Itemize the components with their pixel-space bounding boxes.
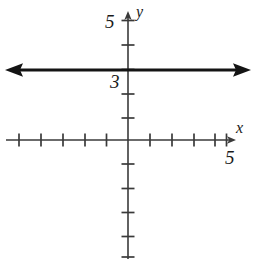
- graph-canvas: [0, 0, 255, 261]
- coordinate-plane-figure: y x 5 3 5: [0, 0, 255, 261]
- x-axis-label: x: [236, 120, 243, 136]
- y-axis-group: [122, 11, 135, 259]
- y-axis-tick-label-5: 5: [105, 12, 115, 31]
- x-axis-tick-label-5: 5: [225, 148, 235, 167]
- y-axis-label: y: [136, 4, 143, 20]
- y-intercept-label-3: 3: [110, 72, 120, 91]
- x-axis-group: [6, 134, 236, 147]
